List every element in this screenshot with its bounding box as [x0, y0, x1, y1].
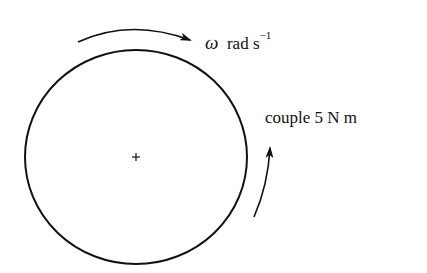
angular-velocity-exponent: −1: [260, 29, 272, 41]
omega-symbol: ω: [205, 32, 218, 53]
angular-velocity-arrow: [78, 29, 190, 42]
angular-velocity-unit: rad s: [227, 34, 260, 53]
couple-label: couple 5 N m: [265, 108, 357, 128]
couple-arrow: [254, 148, 270, 217]
center-marker: [132, 153, 140, 161]
angular-velocity-label: ω rad s−1: [205, 32, 271, 54]
